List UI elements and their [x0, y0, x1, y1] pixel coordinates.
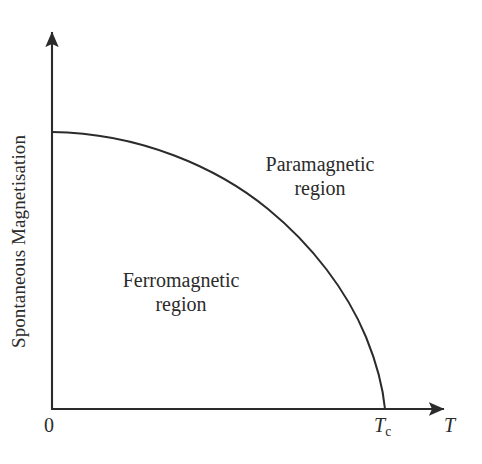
y-axis-title: Spontaneous Magnetisation	[8, 135, 30, 348]
phase-diagram-plot	[0, 0, 482, 464]
curie-temperature-symbol: T	[374, 414, 385, 436]
x-axis-tick-curie-temperature: Tc	[374, 414, 391, 440]
figure-canvas: Spontaneous Magnetisation Paramagnetic r…	[0, 0, 482, 464]
region-label-ferromagnetic: Ferromagnetic region	[112, 269, 250, 316]
region-label-ferromagnetic-line2: region	[112, 293, 250, 317]
region-label-ferromagnetic-line1: Ferromagnetic	[112, 269, 250, 293]
x-axis-tick-zero: 0	[44, 414, 54, 438]
region-label-paramagnetic: Paramagnetic region	[255, 153, 385, 200]
x-axis-title: T	[444, 414, 455, 438]
region-label-paramagnetic-line1: Paramagnetic	[255, 153, 385, 177]
curie-temperature-subscript: c	[385, 424, 391, 439]
region-label-paramagnetic-line2: region	[255, 177, 385, 201]
